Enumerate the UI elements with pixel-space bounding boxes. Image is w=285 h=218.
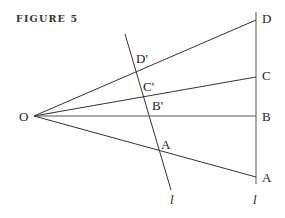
label-O: O (19, 110, 28, 123)
label-D-prime: D' (136, 52, 148, 65)
slanted-line (125, 34, 171, 190)
label-A-slanted: A (161, 138, 170, 151)
label-l-right: l (253, 193, 257, 206)
label-C-prime: C' (143, 80, 154, 93)
label-B: B (262, 110, 271, 123)
label-B-prime: B' (152, 99, 163, 112)
label-l-slanted: l (170, 193, 174, 206)
label-D: D (262, 12, 271, 25)
label-C: C (262, 69, 271, 82)
label-A-right: A (262, 171, 271, 184)
geometry-diagram (0, 0, 285, 218)
ray-OA (34, 116, 256, 177)
